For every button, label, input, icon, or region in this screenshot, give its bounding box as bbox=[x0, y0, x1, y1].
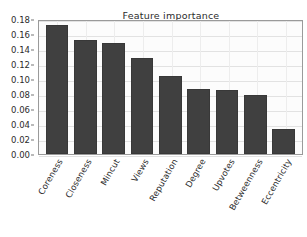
bar-slot bbox=[156, 21, 184, 154]
x-axis: CorenessClosenessMincutViewsReputationDe… bbox=[38, 157, 303, 235]
x-axis-tick-label: Upvotes bbox=[210, 157, 236, 193]
x-axis-tick-slot: Mincut bbox=[99, 157, 128, 235]
bar bbox=[244, 95, 267, 154]
y-axis-tick-label: 0.02 bbox=[11, 135, 30, 145]
bar-slot bbox=[128, 21, 156, 154]
y-axis-tick-mark bbox=[31, 125, 34, 126]
plot-area bbox=[38, 20, 303, 155]
y-axis-tick-label: 0.12 bbox=[11, 60, 30, 70]
y-axis-tick-mark bbox=[31, 155, 34, 156]
y-axis-tick-mark bbox=[31, 110, 34, 111]
bar-series bbox=[39, 21, 302, 154]
bar-slot bbox=[270, 21, 298, 154]
y-axis-tick-label: 0.04 bbox=[11, 120, 30, 130]
x-axis-tick-slot: Eccentricity bbox=[271, 157, 300, 235]
y-axis-tick-label: 0.18 bbox=[11, 15, 30, 25]
x-axis-tick-slot: Degree bbox=[185, 157, 214, 235]
bar bbox=[46, 25, 69, 154]
bar bbox=[216, 90, 239, 155]
y-axis-tick-mark bbox=[31, 80, 34, 81]
bar bbox=[272, 129, 295, 155]
x-axis-tick-slot: Closeness bbox=[71, 157, 100, 235]
bar-slot bbox=[100, 21, 128, 154]
y-axis-tick-mark bbox=[31, 95, 34, 96]
y-axis-tick-label: 0.08 bbox=[11, 90, 30, 100]
bar bbox=[74, 40, 97, 154]
y-axis-tick-mark bbox=[31, 65, 34, 66]
bar-slot bbox=[43, 21, 71, 154]
bar bbox=[187, 89, 210, 154]
bar-slot bbox=[213, 21, 241, 154]
bar-slot bbox=[185, 21, 213, 154]
y-axis-tick-label: 0.06 bbox=[11, 105, 30, 115]
bar-slot bbox=[241, 21, 269, 154]
bar-slot bbox=[71, 21, 99, 154]
y-axis-tick-mark bbox=[31, 50, 34, 51]
y-axis-tick-label: 0.00 bbox=[11, 150, 30, 160]
y-axis-tick-label: 0.10 bbox=[11, 75, 30, 85]
y-axis-tick-mark bbox=[31, 20, 34, 21]
y-axis-tick-label: 0.16 bbox=[11, 30, 30, 40]
bar bbox=[131, 58, 154, 154]
x-axis-tick-slot: Reputation bbox=[156, 157, 185, 235]
x-axis-tick-label: Coreness bbox=[36, 157, 65, 197]
x-axis-tick-label: Views bbox=[129, 157, 150, 184]
bar bbox=[159, 76, 182, 154]
x-axis-tick-label: Mincut bbox=[99, 157, 122, 187]
y-axis: 0.000.020.040.060.080.100.120.140.160.18 bbox=[0, 20, 34, 155]
bar bbox=[102, 43, 125, 154]
x-axis-tick-label: Degree bbox=[183, 157, 207, 189]
chart-figure: Feature importance 0.000.020.040.060.080… bbox=[0, 0, 307, 237]
y-axis-tick-label: 0.14 bbox=[11, 45, 30, 55]
y-axis-tick-mark bbox=[31, 35, 34, 36]
y-axis-tick-mark bbox=[31, 140, 34, 141]
